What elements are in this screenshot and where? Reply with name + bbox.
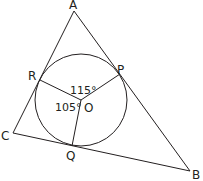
label-q: Q <box>66 149 75 163</box>
side-ca <box>13 11 74 133</box>
side-bc <box>13 133 190 171</box>
label-c: C <box>1 129 9 143</box>
label-o: O <box>84 101 93 115</box>
incircle-diagram: A B C R P Q O 115° 105° <box>0 0 203 181</box>
label-a: A <box>69 0 78 12</box>
angle-roq-label: 105° <box>55 101 82 114</box>
angle-rop-label: 115° <box>70 84 97 97</box>
label-p: P <box>117 63 124 77</box>
label-r: R <box>28 69 36 83</box>
label-b: B <box>192 168 200 181</box>
diagram-canvas: A B C R P Q O 115° 105° <box>0 0 203 181</box>
